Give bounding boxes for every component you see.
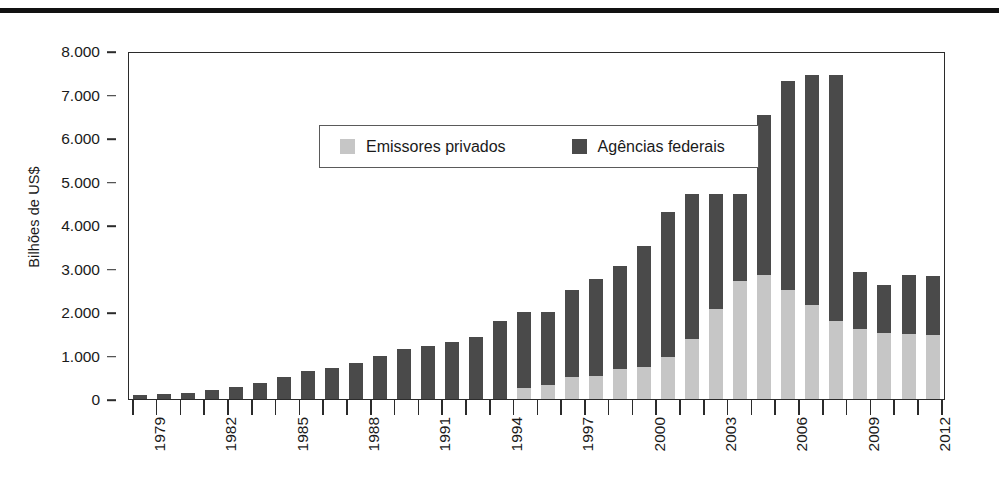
x-tick-mark — [560, 400, 562, 415]
bar-1994 — [493, 321, 507, 399]
bar-1982 — [205, 390, 219, 399]
bar-segment-federal — [277, 377, 291, 399]
x-tick-mark — [584, 400, 586, 415]
bar-segment-federal — [781, 81, 795, 290]
legend-label-private: Emissores privados — [366, 138, 506, 156]
x-tick-label-1997: 1997 — [579, 417, 597, 451]
chart-figure: Bilhões de US$ 01.0002.0003.0004.0005.00… — [0, 13, 999, 490]
x-tick-label-1988: 1988 — [365, 417, 383, 451]
bar-segment-private — [877, 333, 891, 399]
bar-1996 — [541, 312, 555, 399]
x-axis-labels: 1979198219851988199119941997200020032006… — [128, 417, 945, 487]
bar-segment-federal — [229, 387, 243, 399]
bar-segment-federal — [926, 276, 940, 335]
x-tick-mark — [846, 400, 848, 415]
bar-2011 — [902, 275, 916, 399]
bar-segment-private — [853, 329, 867, 399]
x-tick-mark — [941, 400, 943, 415]
bar-segment-federal — [373, 356, 387, 400]
bar-2005 — [757, 115, 771, 399]
x-tick-mark — [751, 400, 753, 415]
x-tick-label-1991: 1991 — [436, 417, 454, 451]
x-tick-label-2003: 2003 — [722, 417, 740, 451]
y-tick-mark — [107, 312, 116, 314]
bar-segment-private — [902, 334, 916, 399]
x-tick-mark — [917, 400, 919, 415]
bar-segment-federal — [709, 194, 723, 309]
bar-segment-private — [613, 369, 627, 399]
bar-segment-private — [517, 388, 531, 399]
x-tick-label-2006: 2006 — [793, 417, 811, 451]
bar-segment-federal — [877, 285, 891, 333]
bar-2009 — [853, 272, 867, 399]
bar-1992 — [445, 342, 459, 399]
bar-1999 — [613, 266, 627, 399]
x-tick-label-2012: 2012 — [936, 417, 954, 451]
bar-segment-federal — [829, 75, 843, 321]
bar-1985 — [277, 377, 291, 399]
y-tick-label: 7.000 — [61, 87, 100, 105]
bar-1988 — [349, 363, 363, 399]
x-tick-mark — [822, 400, 824, 415]
bar-segment-federal — [349, 363, 363, 399]
bar-2008 — [829, 75, 843, 399]
x-tick-mark — [394, 400, 396, 415]
bar-segment-private — [637, 367, 651, 399]
x-tick-label-1979: 1979 — [151, 417, 169, 451]
x-tick-mark — [893, 400, 895, 415]
bar-segment-federal — [397, 349, 411, 399]
y-tick-mark — [107, 269, 116, 271]
bar-segment-private — [733, 281, 747, 399]
x-tick-mark — [180, 400, 182, 415]
bar-segment-federal — [853, 272, 867, 330]
bar-1981 — [181, 393, 195, 399]
x-tick-mark — [370, 400, 372, 415]
bar-segment-federal — [157, 394, 171, 399]
bar-segment-federal — [902, 275, 916, 334]
x-tick-label-1985: 1985 — [294, 417, 312, 451]
y-tick-mark — [107, 182, 116, 184]
bar-2002 — [685, 194, 699, 399]
x-tick-mark — [251, 400, 253, 415]
x-tick-mark — [655, 400, 657, 415]
bar-segment-federal — [637, 246, 651, 366]
x-tick-mark — [156, 400, 158, 415]
x-tick-mark — [489, 400, 491, 415]
x-tick-mark — [346, 400, 348, 415]
bar-segment-private — [565, 377, 579, 399]
y-tick-mark — [107, 225, 116, 227]
x-tick-mark — [322, 400, 324, 415]
legend-item-private: Emissores privados — [340, 138, 506, 156]
x-tick-mark — [870, 400, 872, 415]
x-tick-mark — [418, 400, 420, 415]
bar-2001 — [661, 212, 675, 399]
x-tick-mark — [703, 400, 705, 415]
y-tick-label: 6.000 — [61, 130, 100, 148]
x-tick-mark — [679, 400, 681, 415]
bar-segment-private — [805, 305, 819, 399]
x-axis-ticks — [128, 400, 945, 416]
x-tick-mark — [441, 400, 443, 415]
bar-segment-federal — [613, 266, 627, 369]
x-tick-label-1982: 1982 — [222, 417, 240, 451]
y-tick-mark — [107, 138, 116, 140]
bar-segment-federal — [325, 368, 339, 399]
bar-segment-private — [589, 376, 603, 399]
bar-2000 — [637, 246, 651, 399]
bar-segment-federal — [565, 290, 579, 377]
bar-1989 — [373, 356, 387, 400]
bar-segment-federal — [493, 321, 507, 399]
bar-2006 — [781, 81, 795, 399]
y-tick-label: 5.000 — [61, 174, 100, 192]
bar-segment-federal — [661, 212, 675, 357]
bar-segment-private — [661, 357, 675, 399]
bar-segment-private — [757, 275, 771, 399]
legend-label-federal: Agências federais — [598, 138, 725, 156]
plot-area: Emissores privados Agências federais — [128, 52, 945, 400]
bar-1979 — [133, 395, 147, 399]
bar-1986 — [301, 371, 315, 399]
bar-segment-federal — [685, 194, 699, 339]
x-tick-mark — [513, 400, 515, 415]
bar-1995 — [517, 312, 531, 399]
x-tick-label-2000: 2000 — [651, 417, 669, 451]
